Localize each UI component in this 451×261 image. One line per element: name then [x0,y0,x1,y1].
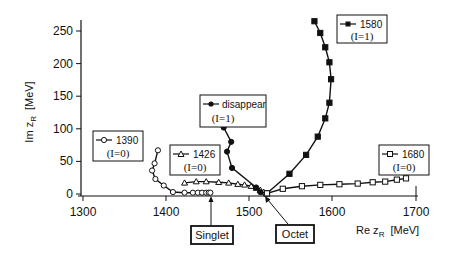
open-circle-marker [161,183,166,188]
open-square-marker [299,184,304,189]
series-1680 [264,176,408,196]
open-square-marker [264,191,269,196]
open-circle-marker [170,189,175,194]
filled-square-marker [312,19,317,24]
series-1580 [264,19,333,196]
legend-1580: 1580 (I=1) [337,15,387,43]
svg-text:(I=0): (I=0) [107,147,130,160]
svg-text:Re zR[MeV]: Re zR[MeV] [356,224,419,239]
svg-text:disappear: disappear [222,99,267,110]
legend-1390: 1390 (I=0) [93,131,143,161]
svg-text:Singlet: Singlet [195,229,229,241]
legend-1426: 1426 (I=0) [170,145,220,175]
filled-square-marker [287,171,292,176]
legend-disappear: disappear (I=1) [200,95,267,127]
y-tick-labels: 0 50 100 150 200 250 [53,24,73,201]
svg-text:1700: 1700 [403,205,430,219]
svg-text:1400: 1400 [153,205,180,219]
svg-text:(I=0): (I=0) [393,161,416,174]
open-square-marker [370,180,375,185]
open-square-marker [383,179,388,184]
svg-text:250: 250 [53,24,73,38]
svg-text:1600: 1600 [319,205,346,219]
open-circle-marker [155,148,160,153]
svg-text:150: 150 [53,89,73,103]
annotation-octet: Octet [265,196,314,243]
svg-text:(I=1): (I=1) [351,30,374,43]
open-circle-marker [208,190,213,195]
y-ticks [76,31,81,194]
filled-square-marker [323,45,328,50]
x-axis-title: Re zR[MeV] [356,224,419,239]
svg-text:1680: 1680 [402,149,425,160]
svg-text:200: 200 [53,57,73,71]
open-circle-marker [190,190,195,195]
arrow-up-icon [209,196,214,202]
filled-circle-marker [229,139,234,144]
filled-square-marker [327,100,332,105]
svg-text:(I=0): (I=0) [184,161,207,174]
filled-square-marker [323,116,328,121]
open-square-marker [280,186,285,191]
open-circle-marker [153,176,158,181]
filled-circle-icon [208,101,213,106]
filled-circle-marker [229,165,234,170]
filled-square-marker [318,30,323,35]
open-square-marker [394,177,399,182]
svg-text:1390: 1390 [116,135,139,146]
open-square-icon [388,152,393,157]
open-circle-marker [149,168,154,173]
octet-arrow [268,200,288,224]
pole-trajectory-chart: 0 50 100 150 200 250 1300 1400 1500 1600… [0,0,451,261]
svg-text:1426: 1426 [193,149,216,160]
open-square-marker [337,182,342,187]
y-axis-title: Im zR[MeV] [23,81,38,142]
filled-square-marker [328,77,333,82]
svg-text:100: 100 [53,122,73,136]
filled-circle-marker [224,149,229,154]
open-square-marker [403,176,408,181]
filled-square-marker [327,60,332,65]
svg-text:50: 50 [60,154,74,168]
filled-square-marker [315,134,320,139]
open-circle-marker [152,161,157,166]
legend-1680: 1680 (I=0) [379,145,429,175]
svg-text:Im zR[MeV]: Im zR[MeV] [23,81,38,142]
filled-circle-marker [254,185,259,190]
filled-circle-marker [258,189,263,194]
svg-text:1580: 1580 [360,19,383,30]
x-ticks [83,196,416,201]
open-square-marker [355,181,360,186]
svg-text:1500: 1500 [236,205,263,219]
svg-text:Octet: Octet [282,228,308,240]
open-circle-marker [182,190,187,195]
svg-text:1300: 1300 [70,205,97,219]
filled-square-icon [346,22,351,27]
svg-text:0: 0 [66,187,73,201]
svg-text:(I=1): (I=1) [212,112,235,125]
open-square-marker [318,182,323,187]
x-tick-labels: 1300 1400 1500 1600 1700 [70,205,430,219]
open-circle-icon [101,137,106,142]
annotation-singlet: Singlet [191,196,233,244]
filled-square-marker [304,152,309,157]
